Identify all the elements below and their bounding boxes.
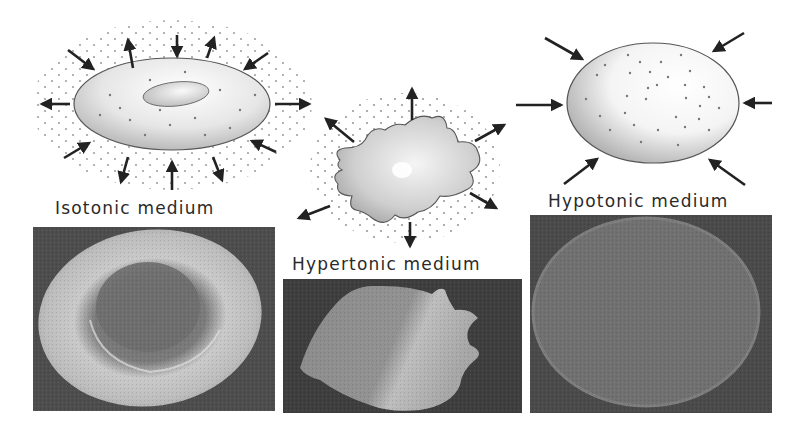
hypertonic-sem-photo (283, 279, 522, 413)
hypertonic-medium-label: Hypertonic medium (292, 254, 481, 274)
osmosis-diagram (0, 0, 806, 437)
hypotonic-swollen-cell-body (567, 43, 739, 163)
hypertonic-cell-highlight (392, 162, 412, 178)
hypotonic-sem-photo (530, 215, 772, 413)
isotonic-medium-label: Isotonic medium (55, 198, 214, 218)
isotonic-cell-illustration (32, 20, 312, 190)
hypertonic-cell-illustration (299, 89, 504, 246)
isotonic-sem-photo (27, 215, 275, 420)
hypotonic-cell-illustration (516, 33, 772, 185)
hypotonic-medium-label: Hypotonic medium (548, 191, 728, 211)
